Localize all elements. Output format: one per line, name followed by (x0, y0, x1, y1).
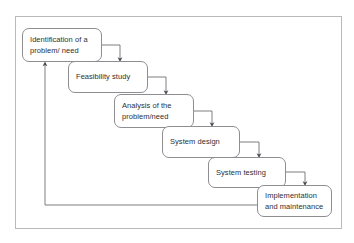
stage-label-line-1: Analysis of the (122, 100, 189, 112)
connector-design-to-testing (240, 142, 259, 156)
stage-box-identification[interactable]: Identification of a problem/ need (22, 28, 102, 62)
stage-box-implementation[interactable]: Implementation and maintenance (257, 185, 332, 217)
stage-label-line-1: Feasibility study (76, 71, 143, 83)
stage-label-line-2: and maintenance (265, 201, 327, 213)
stage-label-line-1: System testing (216, 167, 281, 179)
connector-analysis-to-design (194, 111, 212, 125)
stage-label-line-1: Implementation (265, 190, 327, 202)
stage-label-line-1: System design (170, 136, 235, 148)
connector-identification-to-feasibility (102, 45, 120, 60)
stage-box-analysis[interactable]: Analysis of the problem/need (114, 94, 194, 128)
diagram-canvas: Identification of a problem/ need Feasib… (0, 0, 354, 243)
connector-feasibility-to-analysis (148, 77, 166, 93)
stage-box-testing[interactable]: System testing (208, 157, 286, 188)
stage-box-design[interactable]: System design (162, 126, 240, 158)
stage-label-line-2: problem/ need (30, 45, 97, 57)
stage-label-line-2: problem/need (122, 111, 189, 123)
stage-box-feasibility[interactable]: Feasibility study (68, 61, 148, 93)
connector-testing-to-implementation (286, 172, 305, 184)
stage-label-line-1: Identification of a (30, 34, 97, 46)
